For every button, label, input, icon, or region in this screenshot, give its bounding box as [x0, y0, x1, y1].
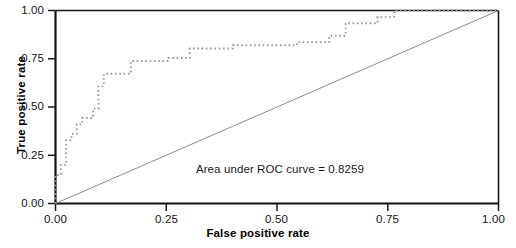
x-tick-label-2: 0.25: [139, 213, 194, 225]
x-axis-title: False positive rate: [0, 227, 516, 239]
x-tick-label-4: 0.75: [360, 213, 415, 225]
x-tick-label-1: 0.00: [28, 213, 83, 225]
y-tick-label-5: 0.00: [6, 197, 44, 209]
y-axis-title: True positive rate: [15, 35, 27, 175]
x-tick-label-5: 1.00: [471, 213, 516, 225]
roc-curve-figure: 1.00 0.75 0.50 0.25 0.00 0.00 0.25 0.50 …: [0, 0, 516, 248]
plot-canvas: [0, 0, 516, 248]
y-tick-label-1: 1.00: [6, 4, 44, 16]
auc-annotation: Area under ROC curve = 0.8259: [160, 163, 400, 175]
x-axis-ticks: [56, 204, 499, 212]
x-tick-label-3: 0.50: [249, 213, 304, 225]
y-axis-ticks: [48, 11, 56, 204]
